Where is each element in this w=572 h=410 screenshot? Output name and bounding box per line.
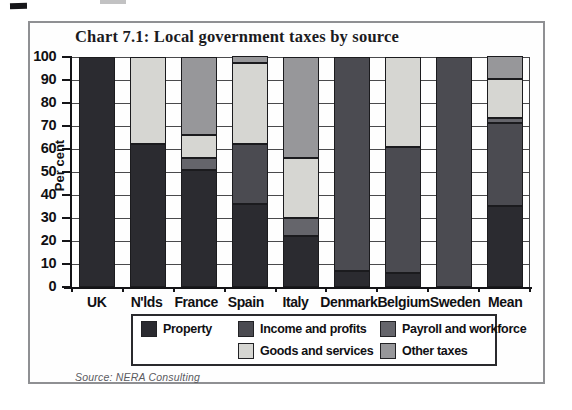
legend-item-property: Property (141, 321, 238, 337)
y-axis-title: Per cent (52, 131, 67, 201)
bar-segment (181, 57, 217, 135)
bar-segment (487, 206, 523, 287)
bar-segment (181, 135, 217, 158)
bar-segment (181, 170, 217, 287)
legend-label: Property (163, 322, 212, 336)
chart-title: Chart 7.1: Local government taxes by sou… (75, 27, 399, 47)
bar-slot-Italy (276, 57, 327, 287)
legend-item-other-taxes: Other taxes (380, 343, 526, 359)
legend-item-payroll-and-workforce: Payroll and workforce (380, 321, 526, 337)
legend-label: Other taxes (402, 344, 467, 358)
bar-segment (334, 57, 370, 271)
bar-slot-N'lds (123, 57, 174, 287)
stacked-bar-UK (79, 57, 115, 287)
x-tick-0 (71, 287, 73, 292)
x-tick-8 (478, 287, 480, 292)
bar-slot-Belgium (377, 57, 428, 287)
legend-label: Income and profits (260, 322, 366, 336)
x-axis-label-Belgium: Belgium (377, 294, 429, 310)
y-tick-80 (62, 102, 71, 104)
x-axis-labels: UKN'ldsFranceSpainItalyDenmarkBelgiumSwe… (72, 294, 530, 310)
x-axis-label-Spain: Spain (221, 294, 271, 310)
bar-segment (334, 271, 370, 287)
legend-swatch (238, 343, 254, 359)
stacked-bar-Spain (232, 56, 268, 287)
x-axis-label-UK: UK (72, 294, 122, 310)
bar-slot-Spain (225, 57, 276, 287)
bar-segment (385, 147, 421, 273)
legend-swatch (238, 321, 254, 337)
bar-segment (232, 204, 268, 287)
y-tick-0 (62, 286, 71, 288)
legend-label: Goods and services (260, 344, 373, 358)
bar-segment (283, 57, 319, 158)
source-note: Source: NERA Consulting (75, 371, 200, 383)
legend-label: Payroll and workforce (402, 322, 526, 336)
legend-swatch (380, 343, 396, 359)
bar-segment (283, 236, 319, 287)
bar-segment (385, 57, 421, 147)
bar-segment (487, 56, 523, 79)
legend-swatch (380, 321, 396, 337)
stacked-bar-Belgium (385, 57, 421, 287)
x-axis-label-N'lds: N'lds (122, 294, 172, 310)
bars-container (72, 57, 530, 287)
x-tick-7 (427, 287, 429, 292)
bar-segment (487, 123, 523, 206)
x-axis-label-Italy: Italy (271, 294, 321, 310)
bar-segment (232, 144, 268, 204)
bar-slot-Mean (479, 57, 530, 287)
x-tick-4 (275, 287, 277, 292)
stacked-bar-Sweden (436, 57, 472, 287)
bar-slot-France (174, 57, 225, 287)
legend-item-income-and-profits: Income and profits (238, 321, 380, 337)
legend-item-goods-and-services: Goods and services (238, 343, 380, 359)
bar-slot-Sweden (428, 57, 479, 287)
legend-swatch (141, 321, 157, 337)
bar-slot-Denmark (326, 57, 377, 287)
x-tick-9 (529, 287, 531, 292)
bar-slot-UK (72, 57, 123, 287)
y-tick-90 (62, 79, 71, 81)
y-tick-30 (62, 217, 71, 219)
scan-artifact-smudge (10, 3, 27, 9)
bar-segment (130, 144, 166, 287)
stacked-bar-Italy (283, 57, 319, 287)
x-tick-6 (376, 287, 378, 292)
bar-segment (283, 218, 319, 236)
bar-segment (232, 56, 268, 63)
y-tick-70 (62, 125, 71, 127)
y-tick-10 (62, 263, 71, 265)
bar-segment (487, 79, 523, 118)
bar-segment (232, 63, 268, 144)
bar-segment (79, 57, 115, 287)
y-tick-20 (62, 240, 71, 242)
x-axis-label-Sweden: Sweden (430, 294, 481, 310)
bar-segment (130, 57, 166, 144)
y-tick-100 (62, 56, 71, 58)
x-axis-label-Mean: Mean (480, 294, 530, 310)
x-tick-1 (122, 287, 124, 292)
x-tick-5 (325, 287, 327, 292)
stacked-bar-N'lds (130, 57, 166, 287)
bar-segment (283, 158, 319, 218)
x-tick-2 (173, 287, 175, 292)
x-tick-3 (224, 287, 226, 292)
scan-artifact-smudge-2 (100, 0, 126, 4)
stacked-bar-Denmark (334, 57, 370, 287)
bar-segment (436, 57, 472, 287)
stacked-bar-Mean (487, 56, 523, 287)
x-axis-label-France: France (171, 294, 221, 310)
stacked-bar-France (181, 57, 217, 287)
bar-segment (385, 273, 421, 287)
legend: PropertyIncome and profitsPayroll and wo… (131, 314, 497, 366)
plot-area: UKN'ldsFranceSpainItalyDenmarkBelgiumSwe… (72, 57, 530, 287)
x-axis-ticks (72, 287, 530, 293)
x-axis-label-Denmark: Denmark (320, 294, 377, 310)
bar-segment (181, 158, 217, 170)
